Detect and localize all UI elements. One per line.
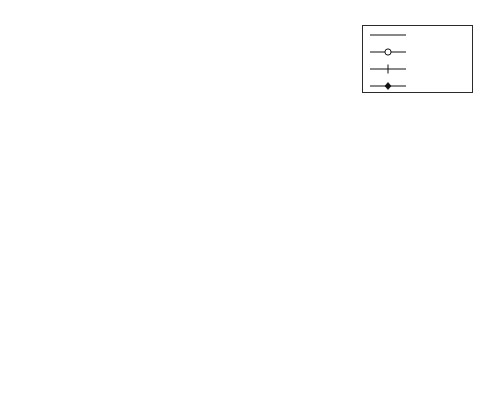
oil-consumption-panel (0, 200, 488, 402)
legend-marker-japan (368, 43, 408, 60)
oil-plot-area (0, 200, 488, 402)
legend-item-australia[interactable] (363, 77, 474, 94)
legend-marker-usa (368, 26, 408, 43)
legend-marker-france (368, 60, 408, 77)
legend-marker-australia (368, 77, 408, 94)
figure-canvas (0, 0, 488, 402)
population-growth-panel (0, 0, 488, 200)
legend-item-usa[interactable] (363, 26, 474, 43)
legend-item-france[interactable] (363, 60, 474, 77)
legend-item-japan[interactable] (363, 43, 474, 60)
legend-population[interactable] (362, 25, 473, 93)
